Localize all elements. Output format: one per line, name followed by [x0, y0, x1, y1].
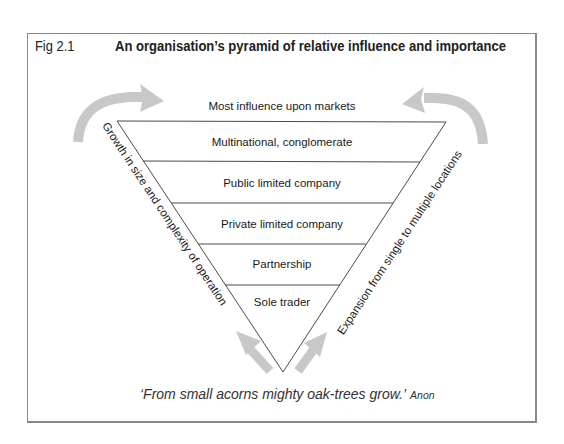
level-label: Sole trader [254, 296, 310, 308]
band-divider [143, 161, 420, 162]
quote: ‘From small acorns mighty oak-trees grow… [140, 386, 435, 402]
curved-arrow-left-icon [78, 84, 164, 142]
quote-text: ‘From small acorns mighty oak-trees grow… [140, 386, 406, 402]
top-label: Most influence upon markets [208, 100, 355, 112]
level-label: Public limited company [223, 177, 341, 189]
level-label: Partnership [253, 258, 312, 270]
straight-arrow-bottom-right-icon [298, 332, 327, 371]
level-label: Multinational, conglomerate [212, 136, 353, 148]
quote-author: Anon [410, 389, 435, 401]
level-label: Private limited company [221, 218, 343, 230]
straight-arrow-bottom-left-icon [236, 331, 270, 371]
curved-arrow-right-icon [402, 87, 483, 144]
